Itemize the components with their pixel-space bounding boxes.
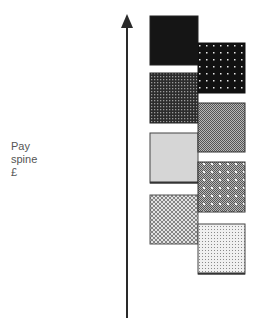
pay-spine-arrow [121, 14, 133, 318]
pay-band-box-1 [150, 16, 198, 65]
arrow-up-icon [121, 14, 133, 28]
pay-band-box-6 [198, 162, 245, 212]
pay-band-box-3 [150, 73, 198, 123]
pay-band-box-7 [150, 195, 198, 244]
pay-band-box-2 [198, 43, 245, 93]
pay-band-box-4 [198, 103, 245, 152]
pay-band-box-8 [198, 224, 245, 274]
pay-spine-diagram [0, 0, 260, 329]
pay-band-box-5 [150, 133, 198, 183]
